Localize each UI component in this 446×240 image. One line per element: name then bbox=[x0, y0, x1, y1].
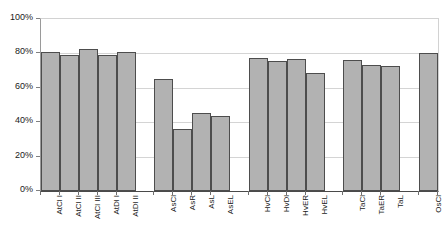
x-axis-label: TaL bbox=[395, 195, 406, 239]
bar bbox=[287, 59, 306, 191]
y-axis-tick-label: 40% bbox=[0, 116, 33, 125]
bar-chart: 0%20%40%60%80%100% AtCl IAtCl IIAtCl III… bbox=[0, 0, 446, 240]
bar bbox=[154, 79, 173, 191]
bar bbox=[362, 65, 381, 191]
y-axis-tick-label: 0% bbox=[0, 185, 33, 194]
x-axis-label: AsCl bbox=[168, 195, 179, 239]
bar bbox=[41, 52, 60, 191]
bar bbox=[268, 61, 287, 191]
x-axis-label: AsL bbox=[206, 195, 217, 239]
x-axis-label: AtDl I bbox=[111, 195, 122, 239]
x-axis-label: OsCl bbox=[433, 195, 444, 239]
bar bbox=[173, 129, 192, 191]
y-axis: 0%20%40%60%80%100% bbox=[0, 0, 36, 240]
x-axis-label: AtDl II bbox=[130, 195, 141, 239]
x-axis-label: HvCl bbox=[262, 195, 273, 239]
x-axis-label: AtCl I bbox=[54, 195, 65, 239]
y-axis-tick-label: 100% bbox=[0, 13, 33, 22]
bar bbox=[79, 49, 98, 191]
x-axis-label: HvDl bbox=[281, 195, 292, 239]
bar bbox=[381, 66, 400, 191]
x-axis-label: TaER bbox=[376, 195, 387, 239]
x-axis-label: AsEL bbox=[225, 195, 236, 239]
bar bbox=[211, 116, 230, 191]
x-axis-labels: AtCl IAtCl IIAtCl IIIAtDl IAtDl IIAsClAs… bbox=[40, 195, 438, 240]
x-axis-label: HvER bbox=[300, 195, 311, 239]
x-axis-label: HvEL bbox=[319, 195, 330, 239]
y-axis-tick-label: 20% bbox=[0, 151, 33, 160]
bar bbox=[192, 113, 211, 191]
x-axis-label: AtCl II bbox=[73, 195, 84, 239]
bar bbox=[98, 55, 117, 191]
x-axis-label: TaCl bbox=[357, 195, 368, 239]
bar bbox=[343, 60, 362, 191]
x-axis-label: AsR bbox=[187, 195, 198, 239]
bar bbox=[419, 53, 438, 191]
plot-area bbox=[40, 18, 439, 192]
x-axis-label: AtCl III bbox=[92, 195, 103, 239]
bars-layer bbox=[41, 19, 438, 191]
bar bbox=[117, 52, 136, 191]
bar bbox=[306, 73, 325, 191]
bar bbox=[60, 55, 79, 191]
y-axis-tick-label: 60% bbox=[0, 82, 33, 91]
bar bbox=[249, 58, 268, 191]
y-axis-tick-label: 80% bbox=[0, 47, 33, 56]
